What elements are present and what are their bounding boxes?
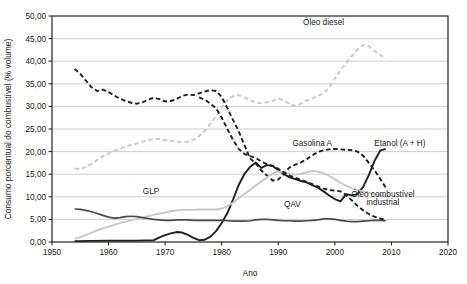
x-tick-label: 2000 bbox=[326, 248, 345, 257]
x-axis-ticks: 19501960197019801990200020102020 bbox=[43, 242, 458, 257]
x-tick-label: 1950 bbox=[43, 248, 62, 257]
series-annotation-label: GLP bbox=[143, 187, 160, 196]
chart-container: 0,005,0010,0015,0020,0025,0030,0035,0040… bbox=[0, 0, 467, 284]
y-tick-label: 30,00 bbox=[26, 102, 47, 111]
y-tick-label: 0,00 bbox=[30, 238, 46, 247]
y-tick-label: 40,00 bbox=[26, 57, 47, 66]
x-tick-label: 2010 bbox=[382, 248, 401, 257]
x-tick-label: 2020 bbox=[439, 248, 458, 257]
y-tick-label: 50,00 bbox=[26, 12, 47, 21]
series-annotation-label: industrial bbox=[367, 198, 400, 207]
x-axis-title-text: Ano bbox=[243, 268, 258, 278]
y-tick-label: 15,00 bbox=[26, 170, 47, 179]
y-tick-label: 45,00 bbox=[26, 35, 47, 44]
y-axis-ticks: 0,005,0010,0015,0020,0025,0030,0035,0040… bbox=[26, 12, 53, 247]
y-tick-label: 5,00 bbox=[30, 215, 46, 224]
series-annotation-label: Etanol (A + H) bbox=[374, 139, 425, 148]
x-tick-label: 1960 bbox=[99, 248, 118, 257]
series-annotation-label: Óleo diesel bbox=[303, 17, 344, 27]
line-chart: 0,005,0010,0015,0020,0025,0030,0035,0040… bbox=[0, 0, 467, 284]
series-annotation-label: Gasolina A bbox=[292, 139, 332, 148]
series-annotation-label: QAV bbox=[284, 200, 301, 209]
y-tick-label: 35,00 bbox=[26, 80, 47, 89]
y-tick-label: 10,00 bbox=[26, 193, 47, 202]
x-tick-label: 1970 bbox=[156, 248, 175, 257]
y-axis-title-text: Consumo porcentual do combustível (% vol… bbox=[3, 38, 13, 219]
y-tick-label: 20,00 bbox=[26, 148, 47, 157]
y-axis-title: Consumo porcentual do combustível (% vol… bbox=[3, 38, 13, 219]
x-tick-label: 1990 bbox=[269, 248, 288, 257]
y-tick-label: 25,00 bbox=[26, 125, 47, 134]
x-tick-label: 1980 bbox=[213, 248, 232, 257]
x-axis-title: Ano bbox=[243, 268, 258, 278]
